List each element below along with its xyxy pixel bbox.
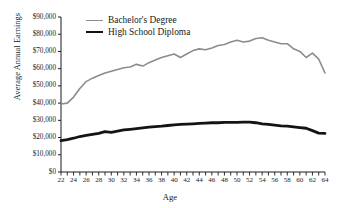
y-tick-label: $70,000 <box>0 47 56 55</box>
x-tick-label: 64 <box>316 176 334 184</box>
legend-item-bachelors-degree: Bachelor's Degree <box>86 15 177 25</box>
axis-lines <box>61 17 325 172</box>
y-tick-label: $10,000 <box>0 150 56 158</box>
legend-label-high-school-diploma: High School Diploma <box>108 27 190 37</box>
x-axis-title: Age <box>0 192 340 202</box>
y-tick-label: $40,000 <box>0 99 56 107</box>
series-line-bachelors-degree <box>61 38 325 104</box>
legend-item-high-school-diploma: High School Diploma <box>86 27 190 37</box>
y-tick-label: $0 <box>0 168 56 176</box>
earnings-by-age-chart: Bachelor's Degree High School Diploma Av… <box>0 0 340 208</box>
legend-swatch-bachelors-degree <box>86 20 103 21</box>
y-tick-label: $50,000 <box>0 81 56 89</box>
y-tick-label: $90,000 <box>0 13 56 21</box>
y-tick-label: $60,000 <box>0 64 56 72</box>
legend-swatch-high-school-diploma <box>86 31 103 33</box>
y-tick-label: $20,000 <box>0 133 56 141</box>
legend-label-bachelors-degree: Bachelor's Degree <box>108 15 177 25</box>
x-axis-ticks <box>61 172 325 176</box>
y-tick-label: $30,000 <box>0 116 56 124</box>
series-line-high-school-diploma <box>61 122 325 141</box>
y-tick-label: $80,000 <box>0 30 56 38</box>
